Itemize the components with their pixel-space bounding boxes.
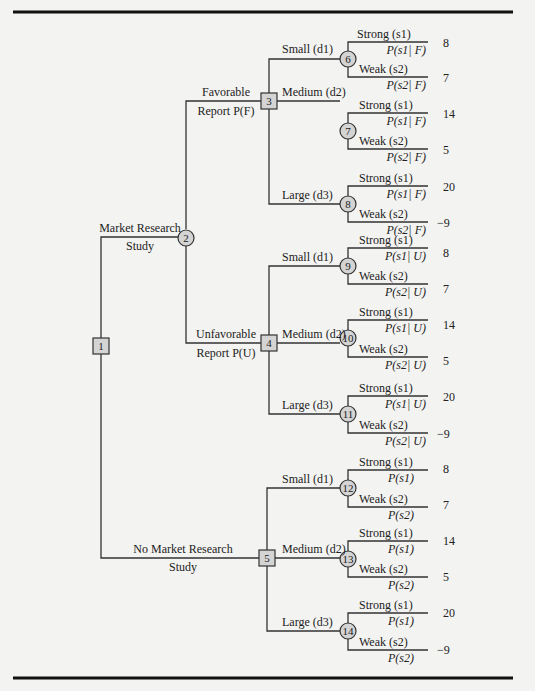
decision-tree-diagram: 1 3 4 5 2 6 7 8 9 10 11 12 — [0, 0, 535, 691]
no-market-research-label-2: Study — [169, 560, 197, 574]
svg-text:Weak (s2): Weak (s2) — [359, 635, 408, 649]
unfavorable-report-label: Unfavorable — [196, 327, 256, 341]
decision-node-5: 5 — [259, 550, 275, 566]
chance-node-8: 8 — [340, 196, 356, 212]
svg-text:8: 8 — [345, 198, 351, 210]
svg-text:−9: −9 — [437, 643, 450, 657]
svg-text:14: 14 — [443, 318, 455, 332]
svg-text:8: 8 — [443, 36, 449, 50]
favorable-report-label: Favorable — [202, 85, 250, 99]
svg-text:Weak (s2): Weak (s2) — [359, 418, 408, 432]
svg-text:Strong (s1): Strong (s1) — [357, 27, 411, 41]
svg-text:−9: −9 — [437, 216, 450, 230]
svg-text:Medium (d2): Medium (d2) — [282, 327, 346, 341]
svg-text:5: 5 — [264, 552, 270, 564]
svg-text:Medium (d2): Medium (d2) — [282, 542, 346, 556]
svg-text:2: 2 — [183, 232, 189, 244]
svg-text:7: 7 — [443, 498, 449, 512]
svg-text:P(s2| U): P(s2| U) — [384, 285, 426, 299]
chance-node-9: 9 — [340, 258, 356, 274]
svg-text:7: 7 — [345, 125, 351, 137]
svg-text:Strong (s1): Strong (s1) — [359, 381, 413, 395]
svg-text:Weak (s2): Weak (s2) — [359, 562, 408, 576]
chance-node-6: 6 — [340, 51, 356, 67]
svg-text:6: 6 — [345, 53, 351, 65]
svg-text:Small (d1): Small (d1) — [282, 472, 333, 486]
outcome-labels: Strong (s1) P(s1| F) Weak (s2) P(s2| F) … — [357, 27, 426, 665]
svg-text:Medium (d2): Medium (d2) — [282, 85, 346, 99]
svg-text:Strong (s1): Strong (s1) — [359, 455, 413, 469]
svg-text:P(s1| F): P(s1| F) — [385, 114, 426, 128]
svg-text:14: 14 — [443, 534, 455, 548]
market-research-label-2: Study — [126, 239, 154, 253]
svg-text:8: 8 — [443, 246, 449, 260]
svg-text:P(s1| U): P(s1| U) — [384, 321, 426, 335]
svg-text:Weak (s2): Weak (s2) — [359, 342, 408, 356]
report-branches — [186, 101, 261, 343]
svg-text:Weak (s2): Weak (s2) — [359, 492, 408, 506]
chance-node-12: 12 — [340, 480, 356, 496]
svg-text:P(s2): P(s2) — [387, 508, 414, 522]
chance-node-11: 11 — [340, 406, 356, 422]
svg-text:P(s1): P(s1) — [387, 614, 414, 628]
svg-text:5: 5 — [443, 143, 449, 157]
svg-text:P(s2| U): P(s2| U) — [384, 358, 426, 372]
payoffs: 8 7 14 5 20 −9 8 7 14 5 20 −9 8 7 14 5 2… — [437, 36, 455, 657]
node5-branches — [267, 488, 340, 631]
svg-text:4: 4 — [266, 337, 272, 349]
svg-text:Weak (s2): Weak (s2) — [359, 207, 408, 221]
unfavorable-report-prob: Report P(U) — [197, 346, 256, 360]
svg-text:P(s1): P(s1) — [387, 542, 414, 556]
svg-text:P(s1| F): P(s1| F) — [385, 43, 426, 57]
svg-text:P(s2): P(s2) — [387, 651, 414, 665]
chance-node-7: 7 — [340, 123, 356, 139]
decision-node-3: 3 — [261, 93, 277, 109]
svg-text:5: 5 — [443, 354, 449, 368]
svg-text:−9: −9 — [437, 427, 450, 441]
svg-text:Small (d1): Small (d1) — [282, 250, 333, 264]
svg-text:P(s1| F): P(s1| F) — [385, 187, 426, 201]
svg-text:7: 7 — [443, 282, 449, 296]
root-branches — [101, 237, 259, 558]
chance-node-14: 14 — [340, 623, 356, 639]
svg-text:Weak (s2): Weak (s2) — [359, 62, 408, 76]
svg-text:P(s2| F): P(s2| F) — [385, 150, 426, 164]
decision-labels: Small (d1) Medium (d2) Large (d3) Small … — [282, 42, 346, 629]
decision-node-4: 4 — [261, 335, 277, 351]
no-market-research-label: No Market Research — [133, 542, 232, 556]
svg-text:12: 12 — [343, 482, 354, 494]
svg-text:20: 20 — [443, 180, 455, 194]
svg-text:Strong (s1): Strong (s1) — [359, 305, 413, 319]
svg-text:5: 5 — [443, 570, 449, 584]
decision-node-1: 1 — [93, 338, 109, 354]
svg-text:7: 7 — [443, 71, 449, 85]
svg-text:P(s2| U): P(s2| U) — [384, 434, 426, 448]
svg-text:Strong (s1): Strong (s1) — [359, 98, 413, 112]
node3-branches — [269, 59, 340, 204]
svg-text:9: 9 — [345, 260, 351, 272]
svg-text:P(s1| U): P(s1| U) — [384, 397, 426, 411]
svg-text:14: 14 — [343, 625, 355, 637]
svg-text:P(s2): P(s2) — [387, 578, 414, 592]
svg-text:Weak (s2): Weak (s2) — [359, 269, 408, 283]
svg-text:Large (d3): Large (d3) — [282, 398, 333, 412]
svg-text:20: 20 — [443, 390, 455, 404]
svg-text:P(s2| F): P(s2| F) — [385, 78, 426, 92]
svg-text:Large (d3): Large (d3) — [282, 188, 333, 202]
svg-text:3: 3 — [266, 95, 272, 107]
svg-text:Weak (s2): Weak (s2) — [359, 134, 408, 148]
svg-text:Strong (s1): Strong (s1) — [359, 233, 413, 247]
svg-text:8: 8 — [443, 462, 449, 476]
svg-text:Strong (s1): Strong (s1) — [359, 526, 413, 540]
market-research-label: Market Research — [99, 221, 181, 235]
svg-text:Large (d3): Large (d3) — [282, 615, 333, 629]
svg-text:Strong (s1): Strong (s1) — [359, 598, 413, 612]
svg-text:1: 1 — [98, 340, 104, 352]
favorable-report-prob: Report P(F) — [198, 104, 255, 118]
svg-text:Strong (s1): Strong (s1) — [359, 171, 413, 185]
svg-text:11: 11 — [343, 408, 354, 420]
svg-text:P(s1): P(s1) — [387, 471, 414, 485]
svg-text:20: 20 — [443, 606, 455, 620]
svg-text:P(s1| U): P(s1| U) — [384, 249, 426, 263]
svg-text:14: 14 — [443, 107, 455, 121]
